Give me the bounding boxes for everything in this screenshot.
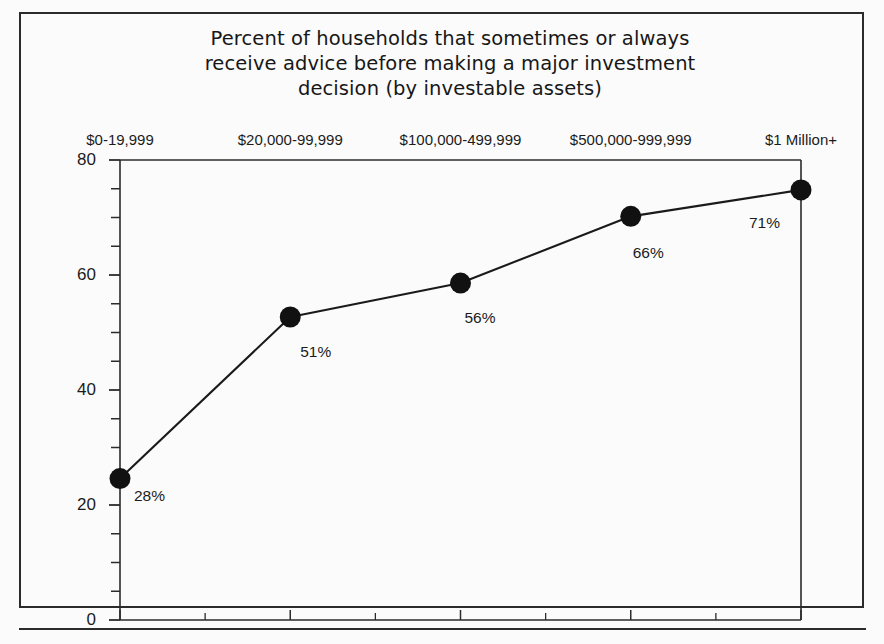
data-label-0: 28% [134, 487, 165, 505]
data-label-2: 56% [465, 309, 496, 327]
chart-figure: Percent of households that sometimes or … [0, 0, 884, 644]
data-label-4: 71% [749, 214, 780, 232]
plot-area [0, 0, 884, 644]
data-label-1: 51% [300, 343, 331, 361]
data-label-3: 66% [633, 244, 664, 262]
